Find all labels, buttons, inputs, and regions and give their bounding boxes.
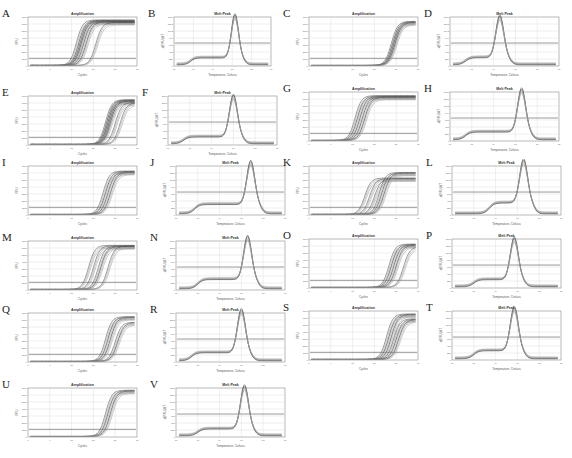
svg-text:2000: 2000 [22, 347, 28, 350]
svg-text:1143: 1143 [170, 254, 176, 257]
svg-text:0: 0 [27, 439, 29, 442]
svg-text:Melt Peak: Melt Peak [214, 91, 231, 95]
svg-text:Amplification: Amplification [352, 161, 375, 165]
svg-text:60: 60 [175, 364, 178, 367]
svg-text:6000: 6000 [303, 317, 309, 320]
svg-text:74: 74 [218, 439, 221, 442]
svg-text:45: 45 [136, 147, 139, 150]
svg-text:686: 686 [447, 266, 452, 269]
svg-text:229: 229 [171, 282, 176, 285]
svg-text:27: 27 [373, 143, 376, 146]
svg-text:Temperature, Celsius: Temperature, Celsius [492, 367, 521, 371]
svg-text:1600: 1600 [170, 312, 176, 315]
svg-text:74: 74 [494, 362, 497, 365]
svg-text:RFU: RFU [296, 187, 300, 193]
svg-text:2000: 2000 [303, 273, 309, 276]
panel-letter: M [2, 232, 12, 243]
amplification-plot: AmplificationCyclesRFU091827364501000200… [295, 232, 421, 300]
svg-text:36: 36 [395, 217, 398, 220]
svg-text:RFU: RFU [296, 38, 300, 44]
svg-text:Melt Peak: Melt Peak [222, 308, 239, 312]
svg-text:686: 686 [447, 193, 452, 196]
svg-text:36: 36 [395, 362, 398, 365]
svg-text:-d(RFU)/dT: -d(RFU)/dT [439, 328, 443, 343]
svg-text:1371: 1371 [446, 245, 452, 248]
svg-text:686: 686 [171, 268, 176, 271]
melt-peak-plot: Melt PeakTemperature, Celsius-d(RFU)/dT6… [162, 159, 288, 227]
svg-text:914: 914 [171, 186, 176, 189]
svg-text:27: 27 [92, 217, 95, 220]
svg-text:6000: 6000 [22, 394, 28, 397]
svg-text:5000: 5000 [22, 30, 28, 33]
svg-text:1371: 1371 [444, 98, 450, 101]
svg-text:60: 60 [451, 362, 454, 365]
svg-text:4000: 4000 [303, 259, 309, 262]
svg-text:RFU: RFU [15, 334, 19, 340]
svg-text:Melt Peak: Melt Peak [222, 236, 239, 240]
svg-text:60: 60 [451, 290, 454, 293]
svg-text:5000: 5000 [22, 401, 28, 404]
svg-text:5000: 5000 [303, 105, 309, 108]
svg-text:Melt Peak: Melt Peak [498, 234, 515, 238]
svg-text:0: 0 [308, 362, 310, 365]
svg-text:686: 686 [447, 338, 452, 341]
svg-text:Amplification: Amplification [352, 87, 375, 91]
svg-text:95: 95 [276, 147, 279, 150]
svg-text:7000: 7000 [303, 16, 309, 19]
svg-text:4000: 4000 [303, 331, 309, 334]
svg-text:229: 229 [163, 137, 168, 140]
svg-text:7000: 7000 [303, 310, 309, 313]
svg-text:457: 457 [445, 126, 450, 129]
svg-text:18: 18 [70, 292, 73, 295]
svg-text:229: 229 [445, 133, 450, 136]
svg-text:88: 88 [254, 147, 257, 150]
svg-text:457: 457 [447, 273, 452, 276]
svg-text:RFU: RFU [296, 332, 300, 338]
svg-text:2000: 2000 [22, 130, 28, 133]
svg-text:67: 67 [196, 364, 199, 367]
svg-text:88: 88 [538, 217, 541, 220]
svg-text:914: 914 [171, 261, 176, 264]
panel-letter: R [150, 304, 157, 315]
panel-letter: T [426, 302, 433, 313]
svg-text:Temperature, Celsius: Temperature, Celsius [216, 444, 245, 448]
svg-text:914: 914 [445, 37, 450, 40]
svg-text:Amplification: Amplification [352, 234, 375, 238]
svg-text:Amplification: Amplification [352, 306, 375, 310]
svg-text:-d(RFU)/dT: -d(RFU)/dT [437, 109, 441, 124]
svg-text:1000: 1000 [22, 282, 28, 285]
svg-text:74: 74 [492, 68, 495, 71]
svg-text:3000: 3000 [303, 44, 309, 47]
svg-text:3000: 3000 [22, 415, 28, 418]
svg-text:914: 914 [171, 333, 176, 336]
panel-t: TMelt PeakTemperature, Celsius-d(RFU)/dT… [426, 302, 566, 374]
svg-text:2000: 2000 [22, 200, 28, 203]
svg-text:914: 914 [171, 408, 176, 411]
svg-text:1000: 1000 [22, 58, 28, 61]
svg-text:RFU: RFU [15, 409, 19, 415]
panel-letter: F [142, 87, 148, 98]
amplification-plot: AmplificationCyclesRFU091827364501000200… [14, 306, 140, 374]
svg-text:2000: 2000 [22, 275, 28, 278]
svg-text:1600: 1600 [170, 165, 176, 168]
svg-text:45: 45 [417, 143, 420, 146]
svg-text:RFU: RFU [15, 117, 19, 123]
svg-text:Melt Peak: Melt Peak [496, 87, 513, 91]
svg-text:45: 45 [417, 290, 420, 293]
svg-text:81: 81 [516, 362, 519, 365]
svg-text:6000: 6000 [22, 102, 28, 105]
panel-letter: I [2, 157, 6, 168]
svg-text:36: 36 [395, 68, 398, 71]
melt-peak-plot: Melt PeakTemperature, Celsius-d(RFU)/dT6… [162, 306, 288, 374]
melt-peak-plot: Melt PeakTemperature, Celsius-d(RFU)/dT6… [162, 381, 288, 449]
svg-text:914: 914 [447, 186, 452, 189]
svg-text:4000: 4000 [22, 186, 28, 189]
svg-text:5000: 5000 [303, 30, 309, 33]
svg-text:67: 67 [196, 292, 199, 295]
svg-text:-d(RFU)/dT: -d(RFU)/dT [161, 34, 165, 49]
svg-text:6000: 6000 [22, 247, 28, 250]
svg-text:0: 0 [308, 143, 310, 146]
svg-text:45: 45 [136, 439, 139, 442]
melt-peak-plot: Melt PeakTemperature, Celsius-d(RFU)/dT6… [160, 10, 274, 78]
svg-text:457: 457 [445, 51, 450, 54]
